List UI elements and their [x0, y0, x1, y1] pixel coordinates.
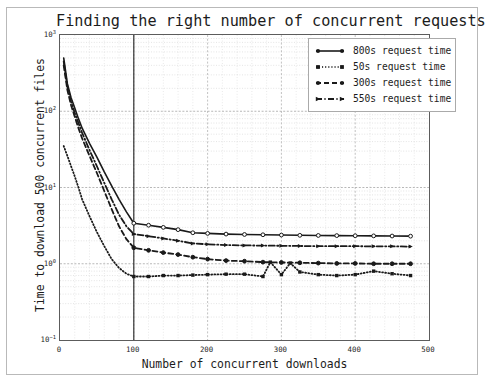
- series-marker-1: [335, 274, 338, 277]
- series-marker-2: [176, 253, 180, 257]
- series-marker-0: [353, 234, 357, 238]
- series-marker-2: [372, 262, 376, 266]
- legend-marker-icon: [313, 44, 347, 58]
- series-marker-1: [176, 274, 179, 277]
- series-marker-2: [298, 261, 302, 265]
- series-marker-0: [132, 221, 136, 225]
- series-marker-1: [132, 275, 135, 278]
- series-marker-2: [147, 248, 151, 252]
- chart-figure: Finding the right number of concurrent r…: [0, 0, 486, 390]
- series-marker-3: [243, 243, 247, 247]
- series-marker-3: [390, 244, 394, 248]
- x-axis-tick-labels: 0100200300400500: [0, 345, 486, 357]
- series-marker-2: [224, 259, 228, 263]
- x-tick-label: 300: [260, 345, 300, 354]
- series-marker-1: [191, 273, 194, 276]
- series-marker-0: [372, 234, 376, 238]
- series-marker-2: [191, 255, 195, 259]
- legend-item-label: 300s request time: [353, 76, 451, 90]
- chart-legend: 800s request time50s request time300s re…: [308, 38, 456, 112]
- legend-marker-icon: [313, 92, 347, 106]
- series-marker-3: [224, 243, 228, 247]
- series-marker-2: [206, 257, 210, 261]
- legend-item: 300s request time: [313, 75, 450, 91]
- series-marker-1: [298, 270, 301, 273]
- series-marker-0: [316, 234, 320, 238]
- legend-item: 50s request time: [313, 59, 450, 75]
- series-marker-1: [354, 273, 357, 276]
- x-tick-label: 100: [113, 345, 153, 354]
- series-marker-2: [316, 261, 320, 265]
- series-marker-3: [261, 244, 265, 248]
- series-marker-1: [372, 269, 375, 272]
- y-axis-label: Time to download 500 concurrent files: [33, 25, 47, 345]
- series-marker-2: [161, 251, 165, 255]
- series-marker-0: [261, 233, 265, 237]
- legend-item-label: 800s request time: [353, 44, 451, 58]
- x-tick-label: 400: [334, 345, 374, 354]
- series-marker-1: [162, 274, 165, 277]
- series-marker-0: [206, 232, 210, 236]
- series-marker-1: [206, 273, 209, 276]
- series-marker-0: [176, 228, 180, 232]
- series-marker-3: [372, 244, 376, 248]
- series-marker-1: [390, 272, 393, 275]
- legend-item-label: 50s request time: [353, 60, 445, 74]
- x-axis-label: Number of concurrent downloads: [59, 357, 430, 371]
- legend-item: 550s request time: [313, 91, 450, 107]
- series-marker-1: [280, 273, 283, 276]
- series-marker-2: [261, 260, 265, 264]
- series-marker-0: [147, 223, 151, 227]
- series-marker-3: [335, 244, 339, 248]
- series-marker-0: [409, 234, 413, 238]
- series-marker-1: [409, 274, 412, 277]
- series-marker-1: [317, 273, 320, 276]
- series-marker-0: [335, 234, 339, 238]
- chart-title: Finding the right number of concurrent r…: [56, 10, 482, 32]
- series-marker-3: [298, 244, 302, 248]
- legend-item: 800s request time: [313, 43, 450, 59]
- x-tick-label: 200: [187, 345, 227, 354]
- legend-marker-icon: [313, 76, 347, 90]
- x-tick-label: 500: [408, 345, 448, 354]
- series-marker-1: [243, 272, 246, 275]
- series-marker-0: [191, 231, 195, 235]
- series-marker-0: [298, 233, 302, 237]
- x-tick-label: 0: [39, 345, 79, 354]
- series-marker-0: [224, 232, 228, 236]
- series-marker-0: [390, 234, 394, 238]
- series-marker-2: [390, 262, 394, 266]
- series-marker-1: [147, 275, 150, 278]
- legend-item-label: 550s request time: [353, 92, 451, 106]
- series-marker-0: [243, 233, 247, 237]
- series-marker-2: [132, 246, 136, 250]
- series-marker-0: [161, 225, 165, 229]
- series-marker-3: [316, 244, 320, 248]
- series-marker-1: [224, 272, 227, 275]
- series-marker-2: [280, 261, 284, 265]
- legend-marker-icon: [313, 60, 347, 74]
- series-marker-1: [261, 275, 264, 278]
- series-marker-2: [243, 259, 247, 263]
- series-marker-3: [409, 245, 413, 249]
- series-marker-2: [409, 262, 413, 266]
- series-marker-0: [280, 233, 284, 237]
- series-marker-3: [191, 241, 195, 245]
- series-marker-2: [335, 262, 339, 266]
- series-marker-2: [353, 262, 357, 266]
